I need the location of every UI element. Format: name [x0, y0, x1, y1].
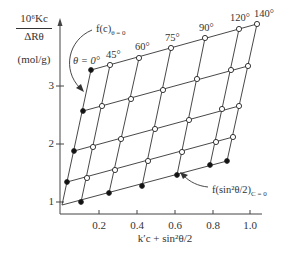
measured-point [145, 158, 150, 163]
measured-point [112, 167, 117, 172]
extrapolated-point [107, 191, 112, 196]
measured-point [213, 139, 218, 144]
arrow-fs-head-icon [180, 172, 188, 179]
theta-label-45: 45° [106, 49, 121, 60]
annotation-f-sin: f(sin²θ/2)C = 0 [212, 184, 267, 198]
theta-label-120: 120° [230, 12, 250, 23]
measured-point [136, 55, 141, 60]
theta-label-0: θ = 0° [73, 55, 100, 66]
x-axis-label: k′c + sin²θ/2 [110, 232, 220, 244]
extrapolated-point [140, 184, 145, 189]
measured-point [84, 175, 89, 180]
x-tick-0.4: 0.4 [125, 219, 149, 231]
theta-label-90: 90° [199, 22, 214, 33]
theta-label-140: 140° [254, 8, 274, 19]
measured-point [128, 96, 133, 101]
constant-theta-line [109, 58, 139, 193]
y-label-denominator: ΔRθ [14, 30, 54, 42]
y-tick-3: 3 [40, 79, 54, 91]
constant-c-line [62, 161, 227, 205]
extrapolated-point [72, 149, 77, 154]
constant-theta-line [142, 48, 171, 186]
y-tick-2: 2 [40, 137, 54, 149]
constant-theta-line [81, 65, 110, 202]
measured-point [107, 62, 112, 67]
data-points [65, 21, 260, 204]
theta-label-75: 75° [165, 32, 180, 43]
measured-point [90, 144, 95, 149]
measured-point [219, 106, 224, 111]
measured-point [245, 63, 250, 68]
constant-theta-line [210, 29, 239, 165]
extrapolated-point [89, 68, 94, 73]
annotation-arrows [70, 30, 208, 187]
measured-point [118, 136, 123, 141]
measured-point [99, 103, 104, 108]
x-tick-0.6: 0.6 [163, 219, 187, 231]
measured-point [202, 35, 207, 40]
measured-point [236, 26, 241, 31]
y-label-unit: (mol/g) [12, 53, 56, 65]
arrow-fs [184, 176, 208, 187]
extrapolated-point [225, 159, 230, 164]
x-tick-1.0: 1.0 [238, 219, 262, 231]
measured-point [230, 134, 235, 139]
measured-point [160, 87, 165, 92]
measured-point [179, 149, 184, 154]
annotation-f-c: f(c)θ = 0 [96, 23, 125, 37]
measured-point [236, 103, 241, 108]
y-label-fraction-bar [16, 28, 52, 29]
theta-label-60: 60° [135, 41, 150, 52]
y-axis-arrow-icon [58, 18, 63, 26]
y-label-numerator: 10⁶Kc [14, 12, 54, 24]
x-ticks [99, 210, 250, 214]
measured-point [152, 126, 157, 131]
x-tick-0.2: 0.2 [87, 219, 111, 231]
x-tick-0.8: 0.8 [201, 219, 225, 231]
measured-point [228, 67, 233, 72]
constant-theta-line [227, 24, 257, 161]
grid-lines [62, 24, 257, 205]
measured-point [254, 21, 259, 26]
extrapolated-point [81, 109, 86, 114]
measured-point [194, 76, 199, 81]
extrapolated-point [208, 163, 213, 168]
measured-point [186, 117, 191, 122]
extrapolated-point [65, 180, 70, 185]
y-tick-1: 1 [40, 195, 54, 207]
measured-point [168, 45, 173, 50]
extrapolated-point [175, 173, 180, 178]
extrapolated-point [79, 200, 84, 205]
